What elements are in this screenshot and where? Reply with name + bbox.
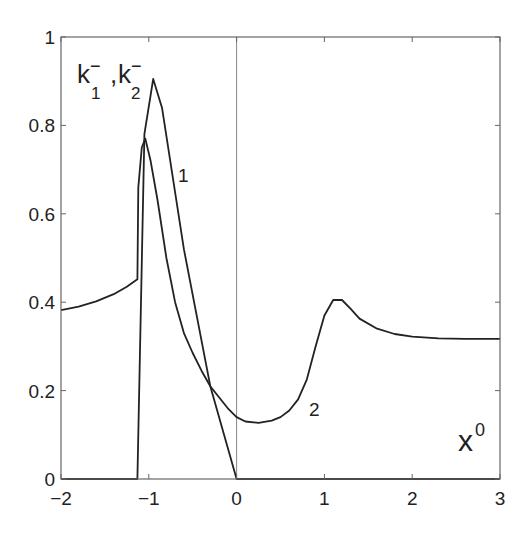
x-tick-label: −2 xyxy=(50,488,72,509)
series-2-line xyxy=(61,139,500,423)
y-tick-label: 0.8 xyxy=(29,115,55,136)
x-tick-label: 3 xyxy=(495,488,506,509)
series-1-line xyxy=(61,79,500,479)
x-tick-label: 1 xyxy=(319,488,330,509)
y-tick-label: 0.4 xyxy=(29,292,56,313)
y-axis-label-k1: k xyxy=(77,59,91,89)
y-tick-label: 1 xyxy=(44,27,55,48)
axis-ticks xyxy=(61,37,500,479)
curve-1-label: 1 xyxy=(178,165,189,186)
x-axis-label-base: x xyxy=(458,424,473,457)
x-axis-label: x 0 xyxy=(458,420,485,457)
axes-frame xyxy=(61,37,500,479)
x-tick-label: 2 xyxy=(407,488,418,509)
x-tick-label: −1 xyxy=(138,488,160,509)
y-tick-label: 0.6 xyxy=(29,204,55,225)
y-axis-label-comma: , xyxy=(110,59,117,89)
y-axis-label-k2: k xyxy=(118,59,132,89)
y-tick-label: 0 xyxy=(44,469,55,490)
x-axis-label-superscript: 0 xyxy=(475,420,485,440)
y-axis-label-sup2: − xyxy=(131,56,142,76)
curve-2-label: 2 xyxy=(309,399,320,420)
y-tick-label: 0.2 xyxy=(29,381,55,402)
y-axis-label-sub2: 2 xyxy=(131,84,140,103)
x-tick-label: 0 xyxy=(231,488,242,509)
chart: −2−1012300.20.40.60.81 1 2 x 0 k 1 − , k… xyxy=(0,0,528,537)
y-axis-label-sup1: − xyxy=(90,56,101,76)
y-axis-label: k 1 − , k 2 − xyxy=(77,56,142,103)
plot-area xyxy=(61,37,500,479)
y-axis-label-sub1: 1 xyxy=(91,84,100,103)
